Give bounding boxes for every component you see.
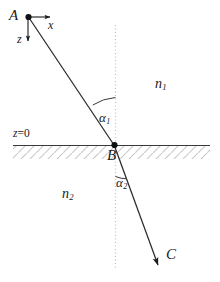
angle-incidence-subscript: 1	[106, 117, 110, 126]
refractive-index-upper-subscript: 1	[162, 82, 167, 92]
refracted-ray	[115, 146, 159, 265]
refractive-index-upper-label: n1	[155, 77, 167, 91]
incident-ray	[30, 19, 115, 146]
angle-refraction-subscript: 2	[123, 182, 127, 191]
point-c-label: C	[166, 247, 176, 262]
point-a-label: A	[9, 8, 18, 23]
refraction-diagram: A B C x z z=0 n1 n2 α1 α2	[0, 0, 220, 282]
x-axis-label: x	[48, 19, 53, 31]
z-zero-label: z=0	[13, 128, 30, 140]
refractive-index-lower-subscript: 2	[69, 192, 74, 202]
z-zero-value: =0	[17, 127, 29, 139]
point-a-marker	[25, 14, 31, 20]
angle-refraction-symbol: α	[116, 175, 123, 190]
z-axis-label: z	[17, 33, 22, 45]
refractive-index-upper-symbol: n	[155, 76, 162, 91]
refractive-index-lower-label: n2	[62, 187, 74, 201]
refractive-index-lower-symbol: n	[62, 186, 69, 201]
diagram-canvas	[0, 0, 220, 282]
angle-incidence-label: α1	[99, 111, 110, 124]
point-b-label: B	[107, 148, 116, 163]
angle-refraction-label: α2	[116, 176, 127, 189]
angle-incidence-symbol: α	[99, 110, 106, 125]
angle-incidence-arc	[93, 98, 116, 106]
